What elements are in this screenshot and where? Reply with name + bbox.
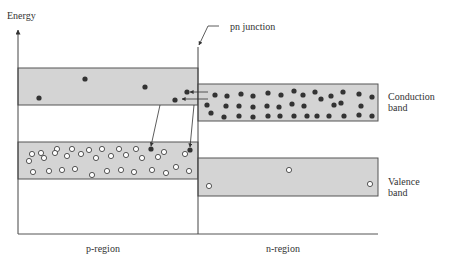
hole bbox=[64, 153, 69, 158]
electron bbox=[265, 90, 270, 95]
hole bbox=[72, 166, 77, 171]
electron bbox=[300, 92, 305, 97]
hole bbox=[173, 164, 178, 169]
electron bbox=[142, 84, 147, 89]
hole bbox=[69, 146, 74, 151]
recombination-arrow bbox=[190, 105, 194, 147]
hole bbox=[93, 155, 98, 160]
junction-label: pn junction bbox=[230, 21, 275, 32]
junction-pointer-arrow bbox=[199, 26, 219, 45]
electron bbox=[291, 88, 296, 93]
electron bbox=[328, 93, 333, 98]
electron bbox=[356, 91, 361, 96]
electron bbox=[304, 113, 309, 118]
electron bbox=[208, 110, 213, 115]
conduction-band-label-line2: band bbox=[388, 102, 435, 113]
hole bbox=[59, 167, 64, 172]
electron bbox=[236, 113, 241, 118]
conduction-band-label: Conduction band bbox=[388, 91, 435, 113]
electron bbox=[301, 103, 306, 108]
valence-band-label-line2: band bbox=[388, 187, 420, 198]
hole bbox=[182, 151, 187, 156]
electron bbox=[331, 102, 336, 107]
n-region-label: n-region bbox=[266, 243, 300, 254]
electron bbox=[318, 96, 323, 101]
electron bbox=[264, 103, 269, 108]
hole bbox=[161, 149, 166, 154]
hole bbox=[186, 168, 191, 173]
hole bbox=[163, 170, 168, 175]
hole bbox=[78, 151, 83, 156]
hole bbox=[367, 181, 372, 186]
electron bbox=[314, 113, 319, 118]
hole bbox=[26, 158, 31, 163]
electron bbox=[340, 89, 345, 94]
electron bbox=[172, 97, 177, 102]
electron bbox=[369, 113, 374, 118]
hole bbox=[286, 167, 291, 172]
electron bbox=[221, 114, 226, 119]
n-valence-band bbox=[198, 158, 378, 196]
electron bbox=[36, 95, 41, 100]
p-conduction-band bbox=[18, 68, 198, 105]
hole bbox=[155, 154, 160, 159]
hole bbox=[52, 150, 57, 155]
electron bbox=[250, 104, 255, 109]
electron bbox=[236, 103, 241, 108]
hole bbox=[108, 153, 113, 158]
electron bbox=[358, 103, 363, 108]
hole bbox=[123, 152, 128, 157]
electron bbox=[187, 147, 192, 152]
conduction-band-label-line1: Conduction bbox=[388, 91, 435, 102]
p-region-label: p-region bbox=[86, 243, 120, 254]
electron bbox=[277, 113, 282, 118]
electron bbox=[326, 113, 331, 118]
hole bbox=[118, 167, 123, 172]
hole bbox=[131, 169, 136, 174]
hole bbox=[104, 168, 109, 173]
hole bbox=[38, 150, 43, 155]
electron bbox=[356, 112, 361, 117]
electron bbox=[312, 89, 317, 94]
electron bbox=[265, 113, 270, 118]
electron bbox=[278, 92, 283, 97]
hole bbox=[89, 172, 94, 177]
valence-band-label-line1: Valence bbox=[388, 176, 420, 187]
electron bbox=[250, 114, 255, 119]
hole bbox=[46, 168, 51, 173]
hole bbox=[41, 155, 46, 160]
electron bbox=[276, 104, 281, 109]
hole bbox=[206, 183, 211, 188]
hole bbox=[86, 147, 91, 152]
electron bbox=[338, 100, 343, 105]
electron bbox=[369, 94, 374, 99]
band-diagram bbox=[0, 0, 449, 263]
electron bbox=[250, 93, 255, 98]
electron bbox=[223, 103, 228, 108]
electron bbox=[341, 113, 346, 118]
hole bbox=[149, 167, 154, 172]
hole bbox=[116, 146, 121, 151]
hole bbox=[30, 169, 35, 174]
valence-band-label: Valence band bbox=[388, 176, 420, 198]
hole bbox=[29, 151, 34, 156]
electron bbox=[238, 91, 243, 96]
hole bbox=[133, 146, 138, 151]
electron bbox=[289, 101, 294, 106]
electron bbox=[82, 76, 87, 81]
electron bbox=[212, 92, 217, 97]
energy-axis-label: Energy bbox=[7, 10, 36, 21]
electron bbox=[204, 102, 209, 107]
electron bbox=[224, 93, 229, 98]
electron bbox=[291, 113, 296, 118]
hole bbox=[139, 155, 144, 160]
recombination-arrow bbox=[151, 105, 160, 146]
hole bbox=[99, 146, 104, 151]
electron bbox=[184, 89, 189, 94]
electron bbox=[148, 146, 153, 151]
